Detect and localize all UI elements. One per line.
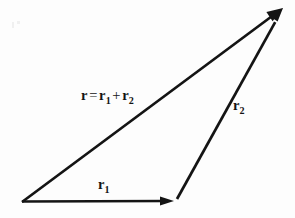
vector-r1-arrowhead-icon [160, 196, 174, 205]
label-r2-subscript: 2 [239, 105, 244, 116]
vector-r2 [177, 8, 283, 199]
label-vector-r2: r2 [233, 98, 245, 116]
label-resultant-equals: = [88, 87, 99, 103]
label-r1-subscript: 1 [104, 184, 109, 195]
label-resultant-r1-base: r [99, 87, 106, 103]
label-resultant-plus: + [111, 87, 122, 103]
label-resultant-r1-subscript: 1 [106, 95, 111, 106]
label-resultant-r: r [81, 87, 88, 103]
label-resultant-r2-subscript: 2 [129, 95, 134, 106]
label-resultant-r2-base: r [122, 87, 129, 103]
label-vector-r1: r1 [98, 177, 110, 195]
vector-r1-shaft [22, 201, 166, 202]
vector-diagram-canvas [0, 0, 295, 218]
vector-r1 [22, 196, 174, 205]
vector-addition-figure: r=r1+r2 r2 r1 [0, 0, 295, 218]
label-resultant-vector: r=r1+r2 [81, 88, 134, 106]
